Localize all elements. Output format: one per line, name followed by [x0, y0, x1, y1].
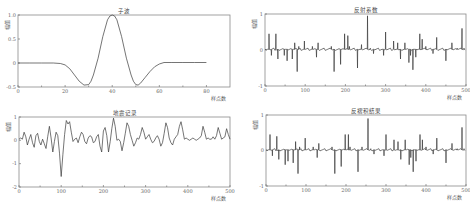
- x-axis-label: 样点数: [447, 194, 462, 201]
- y-tick-label: 1: [261, 112, 264, 118]
- data-trace: [266, 119, 465, 174]
- x-tick-label: 300: [381, 187, 391, 193]
- chart-title: 反褶积结果: [351, 107, 381, 115]
- x-tick-label: 400: [421, 187, 431, 193]
- chart-svg: 0100200300400500-101反褶积结果幅值样点数: [0, 0, 470, 206]
- x-tick-label: 200: [341, 187, 351, 193]
- y-tick-label: 0: [261, 147, 264, 153]
- y-axis-label: 幅值: [252, 120, 259, 130]
- x-tick-label: 500: [461, 187, 470, 193]
- plot-frame: [266, 115, 466, 186]
- x-tick-label: 0: [264, 187, 267, 193]
- x-tick-label: 100: [301, 187, 311, 193]
- y-tick-label: -1: [259, 183, 264, 189]
